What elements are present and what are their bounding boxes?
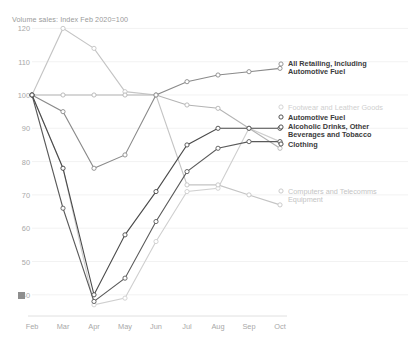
series-data-point bbox=[278, 146, 282, 150]
legend-entry-marker bbox=[279, 62, 283, 66]
x-axis-tick-label: Jun bbox=[150, 322, 162, 331]
x-axis-tick-label: Feb bbox=[26, 322, 39, 331]
series-data-point bbox=[247, 126, 251, 130]
series-data-point bbox=[185, 143, 189, 147]
series-line bbox=[32, 28, 280, 204]
series-data-point bbox=[216, 106, 220, 110]
series-data-point bbox=[123, 153, 127, 157]
series-data-point bbox=[185, 80, 189, 84]
x-axis-tick-label: Apr bbox=[88, 322, 100, 331]
series-data-point bbox=[92, 46, 96, 50]
x-axis-tick-label: Jul bbox=[182, 322, 191, 331]
series-line bbox=[32, 68, 280, 168]
legend-entry-label: All Retailing, Including Automotive Fuel bbox=[288, 60, 367, 77]
series-data-point bbox=[185, 103, 189, 107]
series-color-swatch bbox=[18, 292, 25, 299]
series-data-point bbox=[123, 93, 127, 97]
series-data-point bbox=[123, 296, 127, 300]
x-axis-tick-label: Sep bbox=[242, 322, 255, 331]
series-data-point bbox=[123, 233, 127, 237]
series-data-point bbox=[278, 66, 282, 70]
series-data-point bbox=[185, 183, 189, 187]
x-axis-tick-label: May bbox=[118, 322, 132, 331]
series-data-point bbox=[154, 93, 158, 97]
legend-entry-label: Alcoholic Drinks, Other Beverages and To… bbox=[288, 123, 371, 140]
series-data-point bbox=[61, 206, 65, 210]
legend-entry-label: Clothing bbox=[288, 141, 318, 149]
series-data-point bbox=[123, 276, 127, 280]
series-data-point bbox=[185, 169, 189, 173]
series-data-point bbox=[247, 193, 251, 197]
series-line bbox=[32, 95, 280, 305]
series-data-point bbox=[61, 26, 65, 30]
x-axis-tick-label: Mar bbox=[57, 322, 70, 331]
legend-entry-label: Footwear and Leather Goods bbox=[288, 104, 383, 112]
legend-entry-marker bbox=[279, 125, 283, 129]
series-data-point bbox=[61, 110, 65, 114]
legend-entry-label: Computers and Telecomms Equipment bbox=[288, 188, 377, 205]
series-data-point bbox=[92, 293, 96, 297]
series-data-point bbox=[247, 70, 251, 74]
series-data-point bbox=[61, 166, 65, 170]
line-chart: Volume sales: Index Feb 2020=100 1201101… bbox=[0, 0, 415, 354]
x-axis-tick-label: Oct bbox=[274, 322, 286, 331]
series-data-point bbox=[185, 189, 189, 193]
legend-entry-marker bbox=[279, 142, 283, 146]
series-line bbox=[32, 95, 280, 301]
x-axis-tick-label: Aug bbox=[211, 322, 224, 331]
series-data-point bbox=[247, 140, 251, 144]
series-data-point bbox=[216, 126, 220, 130]
legend-entry-marker bbox=[279, 105, 283, 109]
chart-plot-area bbox=[0, 0, 415, 354]
series-data-point bbox=[154, 219, 158, 223]
series-data-point bbox=[30, 93, 34, 97]
series-data-point bbox=[216, 146, 220, 150]
series-data-point bbox=[154, 239, 158, 243]
series-data-point bbox=[154, 189, 158, 193]
series-data-point bbox=[92, 166, 96, 170]
series-data-point bbox=[92, 299, 96, 303]
series-data-point bbox=[216, 73, 220, 77]
series-data-point bbox=[216, 183, 220, 187]
series-data-point bbox=[61, 93, 65, 97]
series-data-point bbox=[278, 203, 282, 207]
legend-entry-marker bbox=[279, 115, 283, 119]
series-data-point bbox=[92, 93, 96, 97]
legend-entry-marker bbox=[279, 189, 283, 193]
